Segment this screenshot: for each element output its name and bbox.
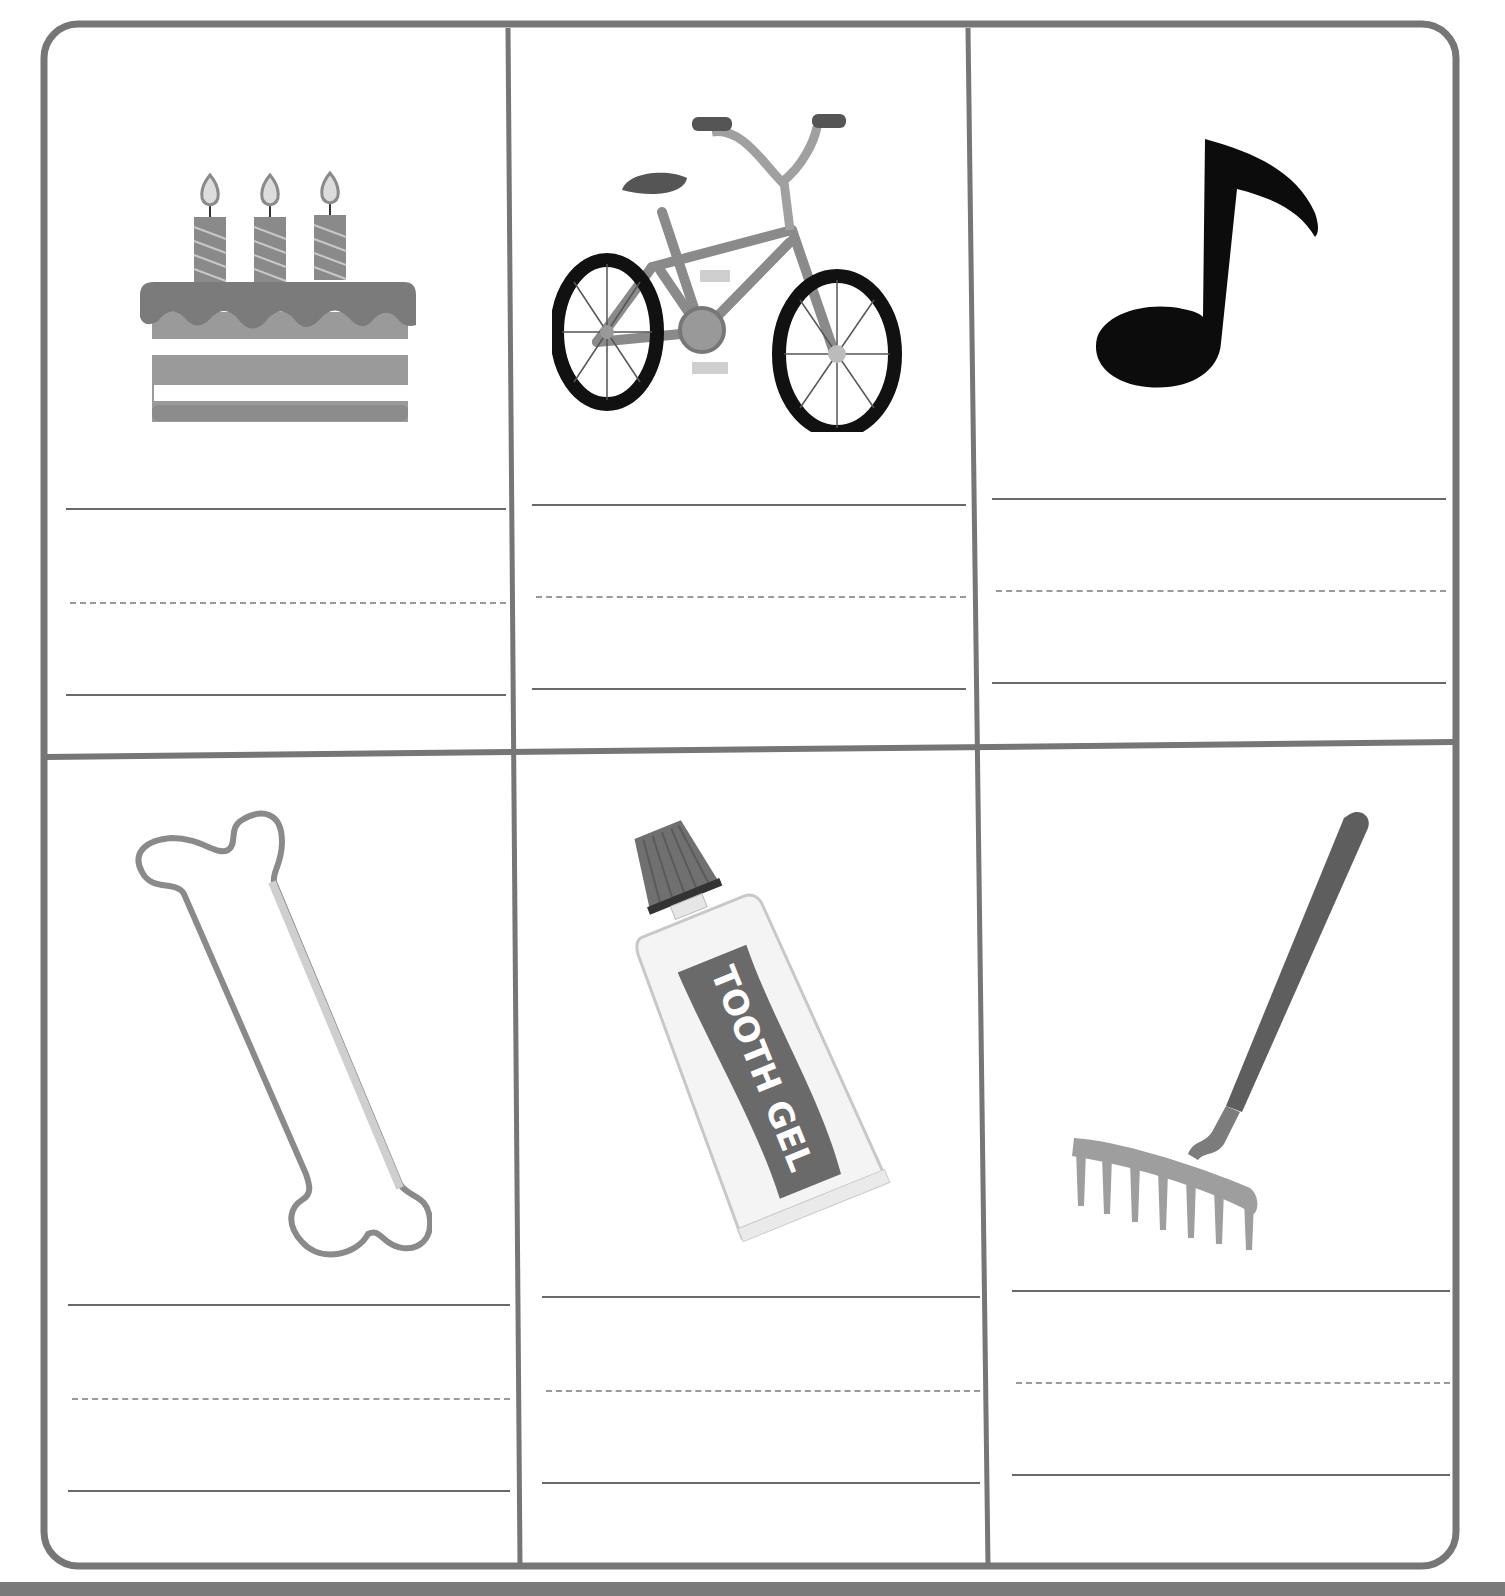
- writing-lines[interactable]: [974, 496, 1450, 746]
- writing-lines[interactable]: [50, 1300, 514, 1560]
- midline-rule: [72, 1398, 510, 1400]
- midline-rule: [1016, 1382, 1450, 1384]
- midline-rule: [70, 602, 506, 604]
- worksheet: TOOTH GEL: [40, 20, 1462, 1572]
- cake-icon: [134, 107, 424, 427]
- writing-lines[interactable]: [994, 1290, 1454, 1550]
- writing-lines[interactable]: [524, 1294, 984, 1554]
- baseline-rule: [66, 694, 506, 696]
- cell-cake: [48, 32, 510, 754]
- music-note-icon: [1087, 133, 1337, 393]
- rake-icon: [1054, 794, 1394, 1254]
- bone-icon: [132, 802, 432, 1262]
- baseline-rule: [542, 1482, 980, 1484]
- top-rule: [532, 504, 966, 506]
- baseline-rule: [68, 1490, 510, 1492]
- bicycle-icon: [552, 102, 932, 432]
- cell-toothpaste: TOOTH GEL: [524, 758, 984, 1558]
- top-rule: [66, 508, 506, 510]
- writing-lines[interactable]: [514, 500, 970, 750]
- cell-rake: [994, 754, 1454, 1554]
- midline-rule: [546, 1390, 980, 1392]
- midline-rule: [996, 590, 1446, 592]
- baseline-rule: [1012, 1474, 1450, 1476]
- cell-music-note: [974, 30, 1450, 746]
- cell-bicycle: [514, 32, 970, 752]
- top-rule: [542, 1296, 980, 1298]
- baseline-rule: [532, 688, 966, 690]
- top-rule: [992, 498, 1446, 500]
- cell-bone: [50, 762, 514, 1562]
- top-rule: [68, 1304, 510, 1306]
- page-edge-shadow: [0, 1582, 1505, 1596]
- baseline-rule: [992, 682, 1446, 684]
- writing-lines[interactable]: [48, 502, 510, 752]
- midline-rule: [536, 596, 966, 598]
- toothpaste-icon: TOOTH GEL: [594, 798, 914, 1258]
- top-rule: [1012, 1290, 1450, 1292]
